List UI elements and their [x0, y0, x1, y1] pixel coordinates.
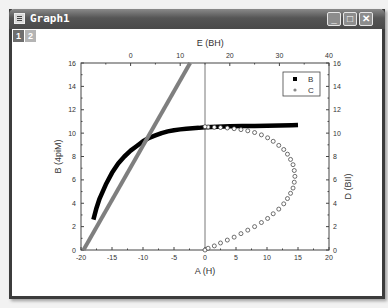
left-tick-label: 0: [72, 247, 76, 254]
data-point: [271, 139, 275, 143]
data-point: [271, 212, 275, 216]
data-point: [266, 216, 270, 220]
data-point: [259, 133, 263, 137]
left-tick-label: 12: [68, 106, 76, 113]
data-point: [282, 202, 286, 206]
right-tick-label: 8: [333, 153, 337, 160]
legend-marker-b: [293, 77, 297, 81]
data-point: [232, 127, 236, 131]
right-tick-label: 14: [333, 83, 341, 90]
legend: BC: [283, 72, 320, 96]
data-point: [246, 129, 250, 133]
right-tick-label: 2: [333, 223, 337, 230]
data-point: [291, 186, 295, 190]
data-point: [285, 197, 289, 201]
data-point: [253, 225, 257, 229]
left-tick-label: 4: [72, 200, 76, 207]
top-tick-label: 0: [129, 52, 133, 59]
top-tick-label: 10: [176, 52, 184, 59]
data-point: [289, 191, 293, 195]
bottom-tick-label: 10: [263, 254, 271, 261]
data-point: [239, 128, 243, 132]
bottom-tick-label: 5: [234, 254, 238, 261]
data-point: [292, 180, 296, 184]
data-point: [292, 169, 296, 173]
data-point: [232, 235, 236, 239]
data-point: [277, 207, 281, 211]
right-tick-label: 12: [333, 106, 341, 113]
right-axis-title: D (BII): [343, 173, 353, 199]
data-point: [206, 246, 210, 250]
data-point: [219, 126, 223, 130]
left-tick-label: 16: [68, 60, 76, 67]
data-point: [277, 143, 281, 147]
right-tick-label: 10: [333, 130, 341, 137]
left-tick-label: 2: [72, 223, 76, 230]
left-tick-label: 8: [72, 153, 76, 160]
right-tick-label: 4: [333, 200, 337, 207]
graph-window: Graph1 _ □ ✕ 1 2 -20-15-10-505101520A (H…: [9, 9, 385, 299]
data-point: [219, 241, 223, 245]
legend-box: [283, 72, 320, 96]
data-point: [259, 221, 263, 225]
top-tick-label: 40: [325, 52, 333, 59]
left-axis-title: B (4piM): [53, 139, 63, 173]
bottom-tick-label: -15: [107, 254, 117, 261]
data-point: [246, 228, 250, 232]
bottom-axis-title: A (H): [195, 266, 216, 276]
top-tick-label: 30: [276, 52, 284, 59]
left-tick-label: 10: [68, 130, 76, 137]
right-tick-label: 0: [333, 247, 337, 254]
bottom-tick-label: 15: [294, 254, 302, 261]
left-tick-label: 6: [72, 176, 76, 183]
data-point: [266, 136, 270, 140]
data-point: [253, 131, 257, 135]
data-point: [285, 152, 289, 156]
top-tick-label: 20: [226, 52, 234, 59]
left-tick-label: 14: [68, 83, 76, 90]
bottom-tick-label: -20: [76, 254, 86, 261]
data-point: [203, 125, 207, 129]
bottom-tick-label: 20: [325, 254, 333, 261]
series-C: [203, 125, 297, 252]
series-E-line: [83, 63, 190, 250]
right-tick-label: 6: [333, 176, 337, 183]
data-point: [225, 126, 229, 130]
right-tick-label: 16: [333, 60, 341, 67]
data-point: [282, 147, 286, 151]
graph-plot[interactable]: -20-15-10-505101520A (H)0246810121416B (…: [9, 0, 385, 290]
legend-label-b: B: [308, 75, 313, 84]
legend-marker-c: [293, 88, 296, 91]
top-axis-title: E (BH): [197, 38, 224, 48]
legend-label-c: C: [308, 86, 314, 95]
data-point: [239, 232, 243, 236]
bottom-tick-label: -10: [138, 254, 148, 261]
data-point: [212, 244, 216, 248]
bottom-tick-label: -5: [171, 254, 177, 261]
data-point: [212, 125, 216, 129]
data-point: [289, 157, 293, 161]
data-point: [293, 174, 297, 178]
data-point: [291, 163, 295, 167]
data-point: [225, 238, 229, 242]
bottom-tick-label: 0: [203, 254, 207, 261]
